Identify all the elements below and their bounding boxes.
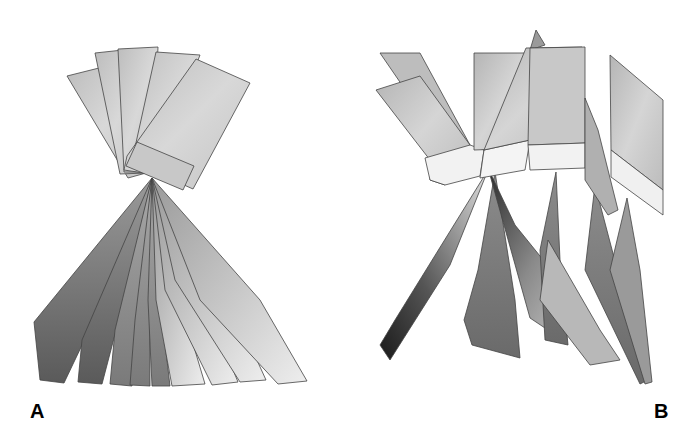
panel-label-b: B: [654, 400, 668, 423]
panel-b: B: [348, 0, 696, 439]
panel-a-illustration: [0, 0, 348, 439]
panel-b-illustration: [348, 0, 696, 439]
panel-label-a: A: [30, 400, 44, 423]
panel-a: A: [0, 0, 348, 439]
